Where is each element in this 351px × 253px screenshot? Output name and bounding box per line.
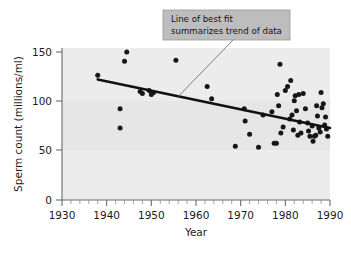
x-tick-label-1990: 1990 (317, 209, 344, 221)
y-axis-tick-labels: 150 100 50 0 (32, 46, 52, 206)
y-tick-label-100: 100 (32, 95, 52, 107)
data-point (124, 50, 129, 55)
y-tick-label-150: 150 (32, 46, 52, 58)
data-point (274, 141, 279, 146)
data-point (301, 91, 306, 96)
data-point (256, 145, 261, 150)
y-axis-title: Sperm count (millions/ml) (12, 56, 24, 192)
x-tick-label-1960: 1960 (183, 209, 210, 221)
data-point (122, 59, 127, 64)
data-point (140, 91, 145, 96)
data-point (303, 106, 308, 111)
data-point (292, 98, 297, 103)
x-axis-title: Year (184, 226, 208, 238)
y-tick-label-0: 0 (45, 194, 52, 206)
data-point (118, 126, 123, 131)
data-point (247, 132, 252, 137)
data-point (319, 90, 324, 95)
data-point (209, 96, 214, 101)
data-point (277, 62, 282, 67)
plot-band-upper (62, 48, 330, 101)
data-point (314, 103, 319, 108)
callout-line-2: summarizes trend of data (171, 26, 282, 36)
x-tick-label-1940: 1940 (93, 209, 120, 221)
data-point (233, 144, 238, 149)
data-point (288, 78, 293, 83)
data-point (269, 109, 274, 114)
data-point (298, 131, 303, 136)
data-point (321, 101, 326, 106)
x-tick-label-1970: 1970 (227, 209, 254, 221)
x-tick-label-1930: 1930 (49, 209, 76, 221)
data-point (205, 84, 210, 89)
data-point (294, 108, 299, 113)
data-point (290, 112, 295, 117)
x-axis-tick-labels: 1930194019501960197019801990 (49, 209, 344, 221)
data-point (173, 58, 178, 63)
data-point (315, 113, 320, 118)
x-tick-label-1950: 1950 (138, 209, 165, 221)
y-axis-ticks (56, 52, 62, 200)
data-point (323, 114, 328, 119)
data-point (281, 125, 286, 130)
data-point (306, 129, 311, 134)
y-tick-label-50: 50 (39, 144, 52, 156)
callout-line-1: Line of best fit (171, 14, 233, 24)
data-point (95, 73, 100, 78)
x-tick-label-1980: 1980 (272, 209, 299, 221)
data-point (118, 106, 123, 111)
data-point (291, 128, 296, 133)
chart-figure: 150 100 50 0 193019401950196019701980199… (0, 0, 351, 253)
data-point (278, 131, 283, 136)
data-point (318, 130, 323, 135)
data-point (307, 134, 312, 139)
data-point (243, 118, 248, 123)
data-point (311, 139, 316, 144)
x-axis-ticks (62, 200, 330, 206)
data-point (276, 103, 281, 108)
data-point (313, 133, 318, 138)
scatter-chart: 150 100 50 0 193019401950196019701980199… (0, 0, 351, 253)
data-point (275, 92, 280, 97)
data-point (296, 92, 301, 97)
plot-band-lower (62, 150, 330, 200)
data-point (325, 134, 330, 139)
data-point (285, 84, 290, 89)
